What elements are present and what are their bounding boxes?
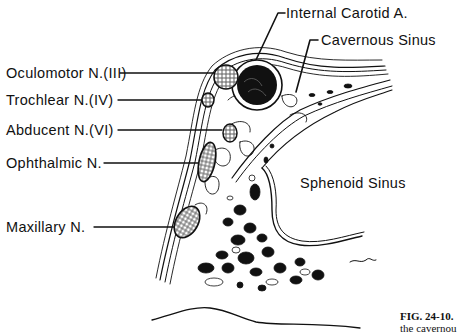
label-cavernous-sinus: Cavernous Sinus — [321, 33, 436, 48]
leader-cavernous-sinus — [296, 40, 318, 92]
maxillary-nerve — [169, 202, 205, 242]
label-abducent: Abducent N.(VI) — [6, 123, 114, 138]
label-sphenoid-sinus: Sphenoid Sinus — [300, 176, 406, 191]
sphenoid-wall-inner — [262, 90, 392, 168]
label-internal-carotid: Internal Carotid A. — [286, 6, 408, 21]
label-trochlear: Trochlear N.(IV) — [6, 93, 113, 108]
figure-number: FIG. 24-10. — [400, 311, 457, 323]
label-ophthalmic: Ophthalmic N. — [6, 156, 102, 171]
abducent-nerve — [223, 124, 237, 142]
label-oculomotor: Oculomotor N.(III) — [6, 66, 127, 81]
bottom-contour — [152, 308, 360, 328]
oculomotor-nerve — [214, 65, 238, 89]
label-maxillary: Maxillary N. — [6, 220, 85, 235]
caption-text: the cavernou — [400, 323, 457, 334]
figure-caption: FIG. 24-10. the cavernou — [400, 311, 457, 334]
trochlear-nerve — [202, 93, 214, 107]
